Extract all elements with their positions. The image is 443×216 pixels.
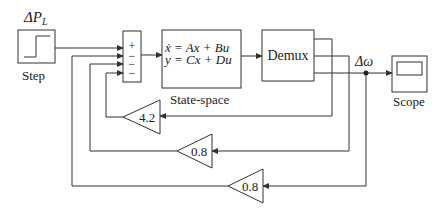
branch-point (364, 71, 369, 76)
demux-label: Demux (267, 48, 308, 63)
gain-block-1[interactable]: 4.2 (123, 100, 160, 134)
scope-block[interactable] (392, 56, 427, 92)
block-diagram: ΔPL Step + − − − ẋ = Ax + Bu y = Cx + Du… (0, 0, 443, 216)
state-space-block[interactable]: ẋ = Ax + Bu y = Cx + Du (162, 30, 241, 88)
gain-block-3[interactable]: 0.8 (228, 169, 263, 203)
scope-label: Scope (393, 94, 425, 109)
state-space-label: State-space (170, 92, 229, 107)
gain-2-value: 0.8 (191, 144, 207, 159)
scope-screen-icon (397, 62, 422, 75)
gain-block-2[interactable]: 0.8 (177, 134, 212, 168)
gain-3-value: 0.8 (242, 179, 258, 194)
output-equation: y = Cx + Du (163, 52, 232, 67)
demux-block[interactable]: Demux (262, 30, 314, 81)
gain-1-to-sum-line (106, 73, 123, 117)
step-signal-label: ΔPL (23, 9, 48, 27)
gain-1-value: 4.2 (139, 110, 155, 125)
step-label: Step (22, 68, 45, 83)
omega-signal-label: Δω (354, 54, 373, 69)
feedback-line-3 (263, 73, 366, 186)
step-block[interactable] (18, 30, 55, 63)
sum-block[interactable]: + − − − (123, 31, 141, 82)
sum-sign-4: − (129, 66, 136, 80)
